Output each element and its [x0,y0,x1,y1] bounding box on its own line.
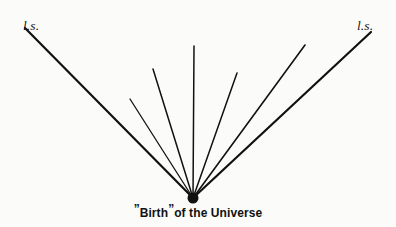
worldlines-diagram [0,0,396,227]
worldline-2 [130,99,193,198]
caption-rest: of the Universe [174,206,262,220]
light-signal-label-right: l.s. [357,19,373,33]
worldline-4 [193,46,194,198]
worldline-5 [193,73,237,198]
worldline-1 [25,28,193,198]
worldline-7 [193,32,371,198]
worldline-group [25,28,371,198]
worldline-6 [193,45,305,198]
caption-keyword: Birth [140,206,169,220]
universe-birth-lightcone-figure: l.s. l.s. ”Birth”of the Universe [0,0,396,227]
figure-caption: ”Birth”of the Universe [0,203,396,219]
birth-point-marker [188,193,199,204]
light-signal-label-left: l.s. [23,19,39,33]
